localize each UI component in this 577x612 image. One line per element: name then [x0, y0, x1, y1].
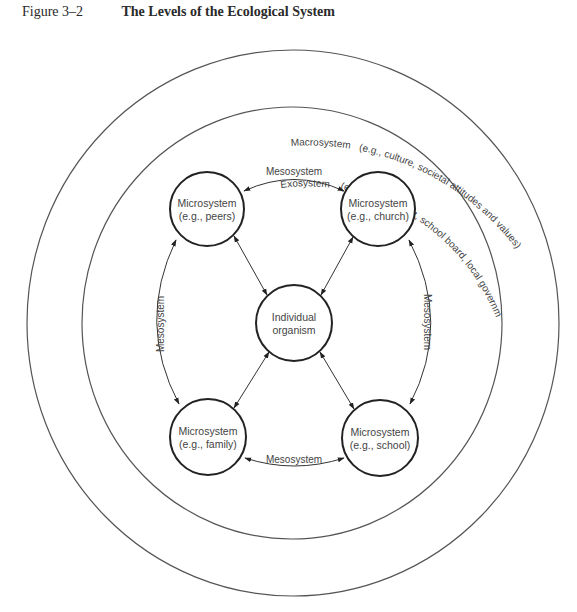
link-family-individual	[234, 352, 269, 408]
mesosystem-label-bottom: Mesosystem	[266, 454, 322, 465]
node-family: Microsystem (e.g., family)	[170, 399, 246, 475]
node-church-title: Microsystem	[349, 197, 408, 209]
link-school-individual	[320, 352, 354, 409]
mesosystem-label-right: Mesosystem	[422, 294, 433, 350]
node-school-example: (e.g., school)	[350, 439, 411, 451]
node-peers: Microsystem (e.g., peers)	[170, 172, 244, 246]
node-school-title: Microsystem	[351, 426, 410, 438]
node-church: Microsystem (e.g., church)	[341, 172, 415, 246]
ecological-system-diagram: Macrosystem (e.g., culture, societal att…	[0, 0, 577, 612]
mesosystem-label-left: Mesosystem	[155, 296, 166, 352]
link-peers-individual	[234, 236, 267, 295]
node-individual: Individual organism	[256, 285, 332, 361]
node-individual-line2: organism	[272, 324, 315, 336]
link-church-individual	[321, 237, 353, 295]
mesosystem-label-top: Mesosystem	[266, 166, 322, 177]
node-church-example: (e.g., church)	[347, 210, 409, 222]
node-family-example: (e.g., family)	[179, 438, 237, 450]
node-school: Microsystem (e.g., school)	[342, 400, 418, 476]
node-peers-example: (e.g., peers)	[179, 210, 236, 222]
node-individual-line1: Individual	[272, 311, 316, 323]
node-family-title: Microsystem	[179, 425, 238, 437]
node-peers-title: Microsystem	[178, 197, 237, 209]
